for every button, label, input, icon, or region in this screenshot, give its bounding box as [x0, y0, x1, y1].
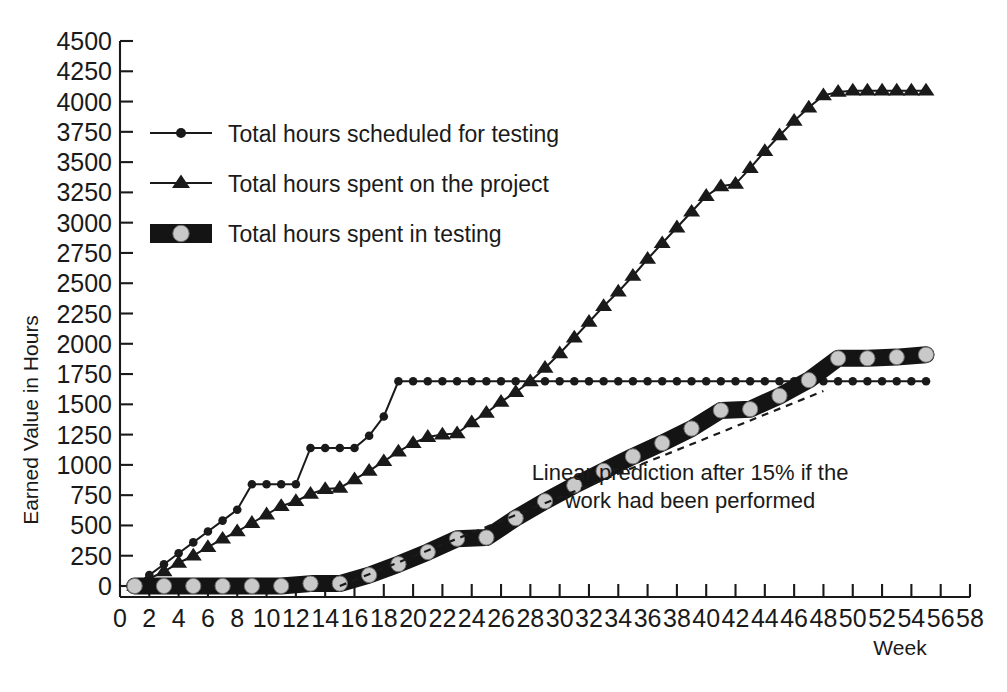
circle-marker [541, 377, 550, 386]
triangle-marker [888, 83, 905, 96]
legend-item-2[interactable]: Total hours spent on the project [150, 171, 550, 197]
y-tick-label: 4500 [56, 27, 112, 55]
legend-item-3[interactable]: Total hours spent in testing [150, 221, 502, 247]
triangle-marker [390, 444, 407, 457]
circle-marker [878, 377, 887, 386]
x-tick-label: 0 [113, 604, 127, 632]
y-axis-ticks [120, 41, 133, 586]
triangle-marker [507, 384, 524, 397]
x-tick-label: 28 [516, 604, 544, 632]
circle-marker [321, 444, 330, 453]
circle-marker [248, 480, 257, 489]
circle-marker [438, 377, 447, 386]
triangle-marker [199, 539, 216, 552]
band-circle-marker [772, 388, 787, 403]
band-circle-marker [420, 544, 435, 559]
circle-marker [262, 480, 271, 489]
x-tick-label: 54 [897, 604, 925, 632]
circle-marker [306, 444, 315, 453]
x-tick-label: 14 [311, 604, 339, 632]
triangle-marker [478, 405, 495, 418]
circle-marker [482, 377, 491, 386]
x-tick-label: 6 [201, 604, 215, 632]
y-tick-label: 2750 [56, 239, 112, 267]
y-tick-label: 1750 [56, 360, 112, 388]
y-tick-label: 4000 [56, 88, 112, 116]
x-tick-label: 20 [399, 604, 427, 632]
y-tick-label: 1000 [56, 451, 112, 479]
circle-marker [497, 377, 506, 386]
triangle-marker [287, 493, 304, 506]
band-circle-marker [801, 373, 816, 388]
circle-marker [394, 377, 403, 386]
y-tick-label: 2000 [56, 330, 112, 358]
y-tick-label: 3250 [56, 178, 112, 206]
triangle-marker [859, 83, 876, 96]
band-circle-marker [889, 350, 904, 365]
x-tick-label: 44 [751, 604, 779, 632]
triangle-marker [449, 426, 466, 439]
band-circle-marker [274, 578, 289, 593]
y-tick-label: 750 [70, 481, 112, 509]
band-circle-marker [918, 347, 933, 362]
x-tick-label: 4 [172, 604, 186, 632]
x-tick-label: 30 [546, 604, 574, 632]
y-tick-label: 0 [98, 572, 112, 600]
triangle-marker [874, 83, 891, 96]
circle-marker [746, 377, 755, 386]
band-circle-marker [479, 530, 494, 545]
x-tick-label: 10 [253, 604, 281, 632]
annotation-line-2: work had been performed [564, 488, 816, 513]
chart-legend: Total hours scheduled for testingTotal h… [150, 121, 559, 247]
circle-marker [599, 377, 608, 386]
circle-marker [570, 377, 579, 386]
triangle-marker [493, 394, 510, 407]
x-tick-label: 40 [692, 604, 720, 632]
triangle-marker [434, 427, 451, 440]
triangle-marker [830, 84, 847, 97]
band-circle-marker [713, 403, 728, 418]
annotation-line-1: Linear prediction after 15% if the [532, 460, 849, 485]
circle-marker [189, 538, 198, 547]
circle-marker [218, 516, 227, 525]
band-circle-marker [743, 402, 758, 417]
band-circle-marker [684, 421, 699, 436]
circle-marker [731, 377, 740, 386]
circle-marker [643, 377, 652, 386]
triangle-marker [185, 548, 202, 561]
triangle-marker [375, 453, 392, 466]
triangle-marker [463, 415, 480, 428]
triangle-marker [317, 481, 334, 494]
triangle-marker [214, 531, 231, 544]
band-circle-marker [156, 578, 171, 593]
x-tick-label: 2 [142, 604, 156, 632]
y-tick-label: 500 [70, 511, 112, 539]
series-layer [126, 83, 934, 594]
circle-marker [922, 377, 931, 386]
legend-item-1[interactable]: Total hours scheduled for testing [150, 121, 559, 147]
y-tick-label: 4250 [56, 57, 112, 85]
y-axis-tick-labels: 0250500750100012501500175020002250250027… [56, 27, 112, 600]
band-circle-marker [303, 576, 318, 591]
x-tick-label: 52 [868, 604, 896, 632]
y-tick-label: 3750 [56, 118, 112, 146]
x-tick-label: 42 [722, 604, 750, 632]
y-tick-label: 3000 [56, 209, 112, 237]
circle-marker [863, 377, 872, 386]
earned-value-chart: 0250500750100012501500175020002250250027… [0, 0, 1007, 692]
circle-marker [379, 412, 388, 421]
y-tick-label: 2250 [56, 300, 112, 328]
y-tick-label: 1500 [56, 390, 112, 418]
triangle-marker [346, 472, 363, 485]
circle-marker [409, 377, 418, 386]
circle-marker [775, 377, 784, 386]
x-tick-label: 16 [341, 604, 369, 632]
y-tick-label: 250 [70, 542, 112, 570]
circle-marker [233, 505, 242, 514]
x-tick-label: 36 [634, 604, 662, 632]
circle-marker [350, 444, 359, 453]
band-circle-marker [244, 578, 259, 593]
triangle-marker [243, 515, 260, 528]
circle-marker [204, 527, 213, 536]
y-tick-label: 2500 [56, 269, 112, 297]
